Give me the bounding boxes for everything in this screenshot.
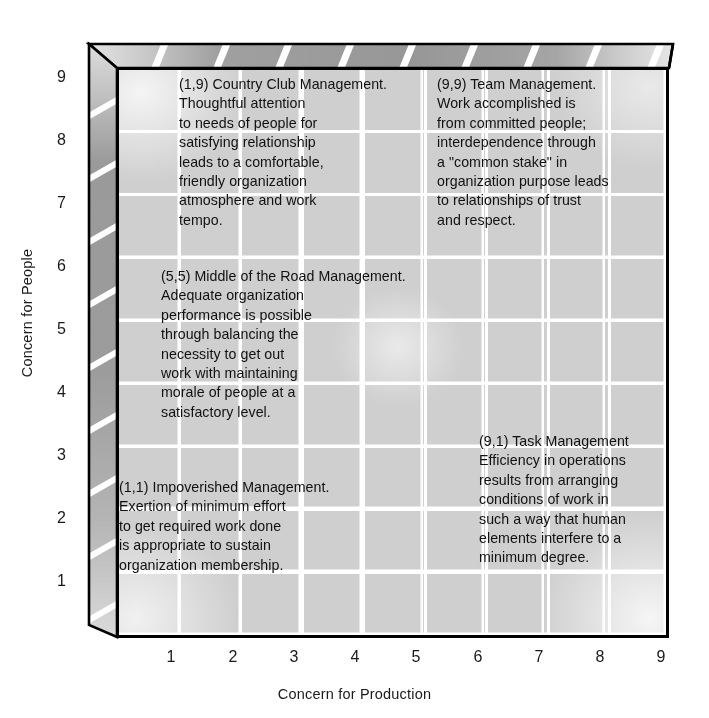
grid-cell [605,321,666,384]
x-axis-tick-3: 3 [279,648,309,666]
x-axis-title: Concern for Production [0,686,709,702]
x-axis-tick-2: 2 [218,648,248,666]
grid-cell [544,321,605,384]
x-axis-tick-8: 8 [585,648,615,666]
y-axis-tick-7: 7 [38,194,66,212]
grid-cell [119,133,180,196]
x-axis-tick-4: 4 [340,648,370,666]
y-axis-tick-2: 2 [38,509,66,527]
y-axis-tick-5: 5 [38,320,66,338]
grid-cell [484,258,545,321]
grid-cell [605,258,666,321]
grid-cell [544,572,605,635]
annotation-middle-of-the-road-management: (5,5) Middle of the Road Management. Ade… [161,267,451,422]
y-axis-tick-6: 6 [38,257,66,275]
grid-cell [119,70,180,133]
grid-cell [423,509,484,572]
y-axis-tick-4: 4 [38,383,66,401]
grid-cell [362,572,423,635]
annotation-country-club-management: (1,9) Country Club Management. Thoughtfu… [179,75,449,230]
annotation-task-management: (9,1) Task Management Efficiency in oper… [479,432,669,568]
grid-cell [484,572,545,635]
grid-cell [484,321,545,384]
x-axis-tick-5: 5 [401,648,431,666]
x-axis-tick-7: 7 [524,648,554,666]
x-axis-tick-9: 9 [646,648,676,666]
grid-cell [423,447,484,510]
grid-cell [119,196,180,259]
x-axis-tick-1: 1 [156,648,186,666]
grid-cell [301,572,362,635]
y-axis-tick-9: 9 [38,68,66,86]
y-axis-tick-1: 1 [38,572,66,590]
grid-cell [544,258,605,321]
y-axis-title: Concern for People [19,223,35,403]
grid-cell [180,572,241,635]
y-axis-tick-3: 3 [38,446,66,464]
managerial-grid-plot: (1,9) Country Club Management. Thoughtfu… [116,67,669,638]
y-axis-tick-8: 8 [38,131,66,149]
annotation-team-management: (9,9) Team Management. Work accomplished… [437,75,669,230]
x-axis-tick-6: 6 [463,648,493,666]
annotation-impoverished-management: (1,1) Impoverished Management. Exertion … [119,478,419,575]
grid-cell [119,572,180,635]
grid-cell [605,572,666,635]
grid-cell [423,572,484,635]
grid-cell [241,572,302,635]
